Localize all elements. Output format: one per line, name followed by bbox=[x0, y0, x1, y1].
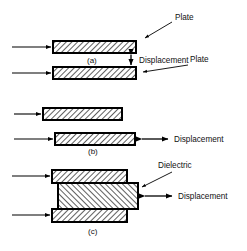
diagram-svg: Displacement Plate Plate (a) Displacemen… bbox=[0, 0, 247, 251]
panel-a-lower-plate bbox=[53, 67, 136, 79]
panel-c: Displacement Dielectric (c) bbox=[12, 161, 228, 236]
panel-c-upper-plate bbox=[52, 170, 127, 183]
figure-canvas: Displacement Plate Plate (a) Displacemen… bbox=[0, 0, 247, 251]
plate-body bbox=[53, 41, 136, 53]
plate-leader-lower bbox=[143, 65, 188, 72]
displacement-label-a: Displacement bbox=[139, 56, 189, 65]
plate-label-upper: Plate bbox=[175, 13, 194, 22]
caption-b: (b) bbox=[88, 147, 98, 156]
panel-a-upper-plate bbox=[53, 41, 136, 53]
displacement-label-b: Displacement bbox=[174, 135, 224, 144]
panel-b: Displacement (b) bbox=[14, 108, 224, 156]
caption-a: (a) bbox=[87, 56, 97, 65]
dielectric-leader bbox=[142, 172, 172, 187]
plate-body bbox=[53, 67, 136, 79]
panel-c-lower-plate bbox=[52, 209, 127, 222]
panel-a: Displacement Plate Plate (a) bbox=[12, 13, 209, 79]
displacement-label-c: Displacement bbox=[178, 192, 228, 201]
panel-b-upper-plate bbox=[43, 108, 122, 120]
caption-c: (c) bbox=[88, 227, 98, 236]
panel-c-dielectric-slab bbox=[58, 183, 138, 209]
plate-leader-upper bbox=[145, 22, 172, 38]
panel-b-lower-plate bbox=[55, 133, 135, 145]
dielectric-label: Dielectric bbox=[158, 161, 192, 170]
plate-label-lower: Plate bbox=[190, 55, 209, 64]
